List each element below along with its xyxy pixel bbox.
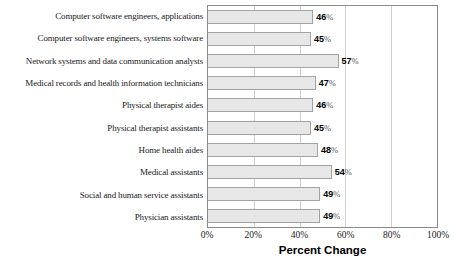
bar-value-label: 47%	[319, 78, 336, 88]
bar-value-label: 49%	[323, 189, 340, 199]
category-label: Computer software engineers, systems sof…	[0, 27, 203, 49]
bar-row: 47%	[208, 72, 437, 94]
category-label: Medical assistants	[0, 161, 203, 183]
x-tick-label: 80%	[383, 230, 400, 240]
bar-value-label: 48%	[321, 145, 338, 155]
x-tick-label: 0%	[201, 230, 214, 240]
bar: 45%	[208, 32, 311, 46]
bar-value-label: 46%	[316, 100, 333, 110]
bar: 46%	[208, 10, 313, 24]
bar-value-label: 57%	[342, 56, 359, 66]
bar: 57%	[208, 54, 339, 68]
percent-change-bar-chart: Computer software engineers, application…	[0, 0, 454, 262]
bar-value-label: 45%	[314, 123, 331, 133]
category-label: Home health aides	[0, 139, 203, 161]
x-tick-label: 60%	[337, 230, 354, 240]
bar-row: 46%	[208, 6, 437, 28]
bar: 49%	[208, 187, 320, 201]
bar-row: 45%	[208, 28, 437, 50]
category-label: Physical therapist assistants	[0, 116, 203, 138]
x-tick-label: 20%	[244, 230, 261, 240]
bar-row: 46%	[208, 94, 437, 116]
bar-row: 49%	[208, 183, 437, 205]
bar-row: 54%	[208, 161, 437, 183]
category-label: Physician assistants	[0, 206, 203, 228]
category-label: Social and human service assistants	[0, 183, 203, 205]
category-label: Physical therapist aides	[0, 94, 203, 116]
bar: 46%	[208, 98, 313, 112]
category-label: Computer software engineers, application…	[0, 5, 203, 27]
plot-area: 46% 45% 57% 47% 46%	[207, 5, 438, 228]
bar-row: 57%	[208, 50, 437, 72]
bar: 48%	[208, 143, 318, 157]
bar-value-label: 49%	[323, 211, 340, 221]
x-tick-label: 40%	[291, 230, 308, 240]
x-axis-title: Percent Change	[207, 244, 438, 256]
bar-rows: 46% 45% 57% 47% 46%	[208, 6, 437, 227]
category-axis: Computer software engineers, application…	[0, 5, 203, 228]
bar-value-label: 45%	[314, 34, 331, 44]
category-label: Network systems and data communication a…	[0, 50, 203, 72]
category-label: Medical records and health information t…	[0, 72, 203, 94]
x-axis-tick-labels: 0% 20% 40% 60% 80% 100%	[207, 230, 438, 242]
bar: 45%	[208, 121, 311, 135]
bar-row: 48%	[208, 139, 437, 161]
bar: 47%	[208, 76, 316, 90]
bar-value-label: 46%	[316, 12, 333, 22]
bar-row: 49%	[208, 205, 437, 227]
x-tick-label: 100%	[427, 230, 449, 240]
bar: 54%	[208, 165, 332, 179]
bar-row: 45%	[208, 116, 437, 138]
bar-value-label: 54%	[335, 167, 352, 177]
bar: 49%	[208, 209, 320, 223]
